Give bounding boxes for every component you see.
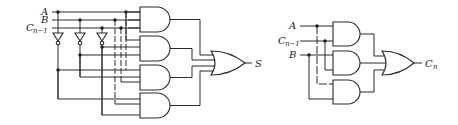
carry-input-label-c-subscript: n−1 [285, 40, 300, 48]
carry-circuit: A C n−1 B C n [278, 20, 438, 104]
full-adder-diagram: A B C n−1 [0, 0, 458, 125]
and-gate-2 [140, 36, 170, 61]
carry-and-gate-2 [333, 51, 360, 75]
carry-input-label-b: B [288, 49, 296, 60]
and-gate-1 [140, 7, 170, 32]
inverter-c [97, 28, 107, 45]
input-label-c-subscript: n−1 [33, 27, 48, 35]
or-gate-sum [211, 51, 245, 75]
sum-circuit: A B C n−1 [26, 6, 262, 118]
input-label-b: B [40, 14, 48, 25]
output-label-c: C [425, 58, 433, 69]
carry-and-gate-3 [333, 80, 360, 104]
output-label-s: S [255, 58, 262, 69]
and-gate-3 [140, 65, 170, 90]
inverter-b [75, 20, 85, 45]
and2-to-or [170, 49, 216, 61]
carry-and-gate-1 [333, 22, 360, 46]
and3-to-or [170, 66, 216, 78]
output-label-c-subscript: n [433, 63, 438, 71]
and-gate-4 [140, 93, 170, 118]
or-gate-carry [382, 51, 414, 75]
carry-input-label-a: A [288, 20, 296, 31]
